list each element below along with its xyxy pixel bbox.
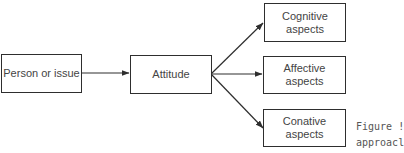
conative-aspects-box: Conative aspects [263, 109, 346, 147]
attitude-label: Attitude [152, 68, 189, 81]
cognitive-aspects-label-line2: aspects [286, 23, 324, 36]
figure-caption-line2: approacl [356, 137, 404, 149]
affective-aspects-label: Affective aspects [264, 62, 345, 88]
person-or-issue-label: Person or issue [3, 67, 79, 80]
arrow-attitude-to-cognitive [211, 23, 263, 74]
conative-aspects-label: Conative aspects [264, 115, 345, 141]
cognitive-aspects-label-line1: Cognitive [282, 10, 328, 23]
arrow-attitude-to-conative [211, 74, 263, 128]
cognitive-aspects-box: Cognitive aspects [264, 3, 346, 42]
attitude-box: Attitude [130, 55, 212, 94]
person-or-issue-box: Person or issue [1, 54, 82, 93]
affective-aspects-box: Affective aspects [263, 56, 346, 94]
figure-caption-line1: Figure ! [356, 121, 404, 133]
